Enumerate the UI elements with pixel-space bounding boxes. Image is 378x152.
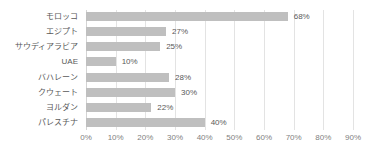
bar-row: 68% — [86, 12, 353, 21]
x-tick-label: 70% — [286, 132, 302, 144]
bar-value-label: 27% — [172, 27, 188, 36]
bar — [86, 103, 151, 112]
bar-value-label: 30% — [181, 88, 197, 97]
x-tick-label: 80% — [315, 132, 331, 144]
category-label: バハレーン — [0, 73, 82, 82]
category-label: クウェート — [0, 88, 82, 97]
category-label: エジプト — [0, 27, 82, 36]
bar-value-label: 28% — [175, 73, 191, 82]
x-tick-label: 30% — [167, 132, 183, 144]
x-tick-label: 20% — [137, 132, 153, 144]
bar-row: 25% — [86, 42, 353, 51]
category-label: パレスチナ — [0, 118, 82, 127]
bar-row: 22% — [86, 103, 353, 112]
x-axis: 0%10%20%30%40%50%60%70%80%90% — [86, 132, 353, 146]
bar — [86, 57, 116, 66]
bar-row: 40% — [86, 118, 353, 127]
x-tick-label: 0% — [80, 132, 92, 144]
bar-rows: 68%27%25%10%28%30%22%40% — [86, 10, 353, 130]
category-label: ヨルダン — [0, 103, 82, 112]
bar-row: 30% — [86, 88, 353, 97]
bar-value-label: 22% — [157, 103, 173, 112]
bar — [86, 118, 205, 127]
bar — [86, 27, 166, 36]
bar — [86, 42, 160, 51]
bar-row: 10% — [86, 57, 353, 66]
bar-value-label: 25% — [166, 42, 182, 51]
x-tick-label: 50% — [226, 132, 242, 144]
bar-row: 27% — [86, 27, 353, 36]
category-label: モロッコ — [0, 12, 82, 21]
bar-value-label: 10% — [122, 57, 138, 66]
x-tick-label: 90% — [345, 132, 361, 144]
x-tick-label: 10% — [108, 132, 124, 144]
category-axis-labels: モロッコ エジプト サウディアラビア UAE バハレーン クウェート ヨルダン … — [0, 10, 82, 130]
bar-value-label: 68% — [294, 12, 310, 21]
category-label: UAE — [0, 57, 82, 66]
gridline — [353, 10, 354, 130]
bar — [86, 88, 175, 97]
bar-chart: モロッコ エジプト サウディアラビア UAE バハレーン クウェート ヨルダン … — [0, 0, 378, 152]
bar — [86, 73, 169, 82]
x-tick-label: 40% — [197, 132, 213, 144]
bar — [86, 12, 288, 21]
category-label: サウディアラビア — [0, 42, 82, 51]
bar-value-label: 40% — [211, 118, 227, 127]
plot-area: 68%27%25%10%28%30%22%40% — [86, 10, 353, 130]
x-tick-label: 60% — [256, 132, 272, 144]
bar-row: 28% — [86, 73, 353, 82]
